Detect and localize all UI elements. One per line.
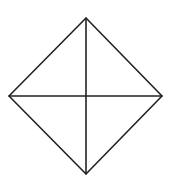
diagram-canvas: [0, 0, 185, 179]
